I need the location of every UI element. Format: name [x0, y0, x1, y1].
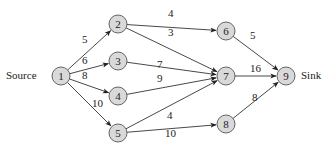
sink-label: Sink: [301, 70, 321, 81]
edge-capacity-label: 8: [252, 92, 258, 103]
edge-capacity-label: 9: [157, 73, 163, 84]
node-label: 2: [109, 15, 127, 33]
edge-capacity-label: 4: [168, 8, 174, 19]
edge-1-2: [68, 31, 111, 70]
node-label: 1: [52, 67, 70, 85]
source-label: Source: [6, 70, 37, 81]
node-label: 9: [277, 67, 295, 85]
node-label: 8: [217, 115, 235, 133]
node-label: 7: [217, 67, 235, 85]
edge-4-7: [127, 78, 216, 95]
edge-capacity-label: 5: [82, 34, 88, 45]
edge-capacity-label: 6: [82, 55, 88, 66]
edge-1-3: [70, 64, 109, 74]
edge-capacity-label: 8: [82, 70, 88, 81]
edge-capacity-label: 16: [250, 63, 261, 74]
node-label: 3: [109, 52, 127, 70]
edge-3-7: [127, 62, 216, 74]
node-label: 5: [109, 124, 127, 142]
node-label: 6: [217, 22, 235, 40]
edge-capacity-label: 10: [92, 98, 103, 109]
node-label: 4: [109, 87, 127, 105]
edge-5-7: [126, 81, 217, 129]
edge-capacity-label: 3: [168, 27, 174, 38]
edge-capacity-label: 5: [250, 30, 256, 41]
edge-capacity-label: 10: [165, 128, 176, 139]
edge-1-5: [67, 82, 111, 126]
edge-capacity-label: 7: [157, 59, 163, 70]
edge-capacity-label: 4: [167, 110, 173, 121]
